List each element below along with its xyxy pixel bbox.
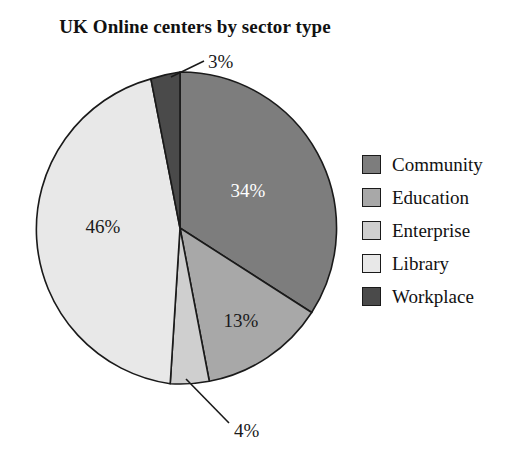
legend-item-library[interactable]: Library [362, 247, 522, 280]
slice-label-workplace: 3% [208, 51, 234, 72]
legend-item-enterprise[interactable]: Enterprise [362, 214, 522, 247]
legend-swatch-community [362, 155, 381, 174]
legend-item-workplace[interactable]: Workplace [362, 280, 522, 313]
legend-swatch-education [362, 188, 381, 207]
leader-line-enterprise [186, 379, 229, 423]
legend-swatch-library [362, 254, 381, 273]
slice-label-enterprise: 4% [234, 420, 260, 441]
legend-item-education[interactable]: Education [362, 181, 522, 214]
slice-label-library: 46% [86, 216, 121, 237]
legend-item-community[interactable]: Community [362, 148, 522, 181]
legend-swatch-workplace [362, 287, 381, 306]
legend-label-education: Education [392, 188, 469, 207]
legend-label-enterprise: Enterprise [392, 221, 470, 240]
slice-label-community: 34% [231, 180, 266, 201]
slice-label-education: 13% [224, 310, 259, 331]
legend-label-workplace: Workplace [392, 287, 474, 306]
legend-label-library: Library [392, 254, 449, 273]
legend: Community Education Enterprise Library W… [362, 148, 522, 313]
legend-swatch-enterprise [362, 221, 381, 240]
legend-label-community: Community [392, 155, 483, 174]
